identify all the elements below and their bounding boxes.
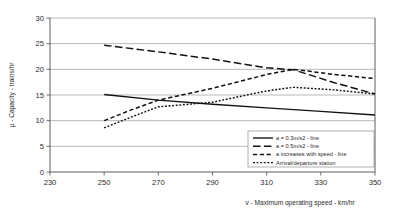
- x-axis-title: v - Maximum operating speed - km/hr: [245, 199, 355, 207]
- y-axis-title: µ - Capacity - trains/hr: [8, 62, 16, 128]
- x-tick-label-230: 230: [44, 178, 57, 187]
- y-tick-label-10: 10: [36, 116, 44, 125]
- line-chart-canvas: 051015202530 230250270290310330350 µ - C…: [0, 0, 395, 213]
- chart-background: [0, 0, 395, 213]
- legend-label-3: Arrival/departure station: [276, 160, 335, 166]
- x-tick-label-270: 270: [152, 178, 165, 187]
- x-tick-label-250: 250: [98, 178, 111, 187]
- chart-legend: a = 0.3m/s2 - linea = 0.5m/s2 - linea in…: [248, 131, 374, 167]
- x-tick-label-290: 290: [206, 178, 219, 187]
- x-tick-label-330: 330: [314, 178, 327, 187]
- legend-label-1: a = 0.5m/s2 - line: [276, 143, 319, 149]
- y-tick-label-20: 20: [36, 65, 44, 74]
- y-tick-label-0: 0: [40, 168, 44, 177]
- y-tick-label-25: 25: [36, 39, 44, 48]
- y-tick-label-30: 30: [36, 14, 44, 23]
- y-tick-label-15: 15: [36, 91, 44, 100]
- legend-label-0: a = 0.3m/s2 - line: [276, 135, 319, 141]
- x-tick-label-350: 350: [369, 178, 382, 187]
- chart-figure: 051015202530 230250270290310330350 µ - C…: [0, 0, 395, 213]
- legend-label-2: a increases with speed - line: [276, 151, 347, 157]
- y-tick-label-5: 5: [40, 142, 44, 151]
- x-tick-label-310: 310: [260, 178, 273, 187]
